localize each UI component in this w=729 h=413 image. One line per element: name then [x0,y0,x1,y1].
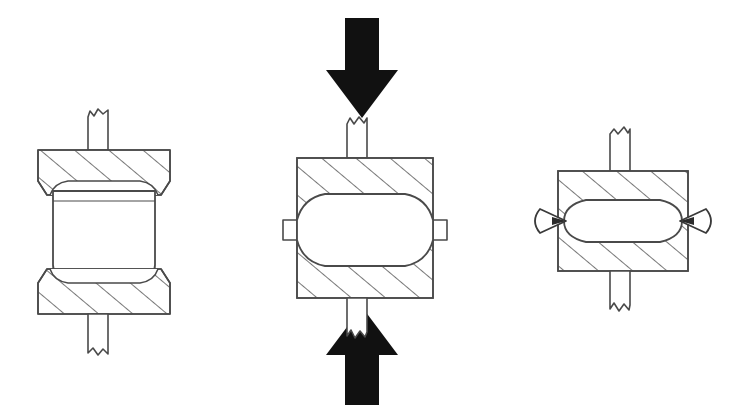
lower-die-shank [88,314,108,355]
workpiece-billet [564,200,682,242]
forging-sequence-diagram [0,0,729,413]
compression-arrow-top [326,18,398,118]
stage-2-barrel-upset [283,117,460,338]
flash-left [283,220,297,240]
flash-right [433,220,447,240]
workpiece-billet [53,191,155,277]
stage-1-open-dies [20,109,200,355]
lower-die-shank [347,298,367,338]
upper-die-shank [347,117,367,158]
lower-die-shank [610,271,630,311]
stage-3-closed-dies-flash [535,127,718,311]
upper-die-shank [88,109,108,150]
diagram-canvas: Closed-die forging (upsetting) process s… [0,0,729,413]
upper-die-shank [610,127,630,171]
workpiece-billet [297,194,433,266]
